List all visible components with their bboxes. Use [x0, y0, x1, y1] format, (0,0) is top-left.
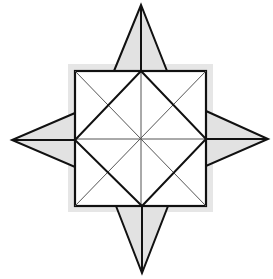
compass-star-diagram — [0, 0, 273, 279]
thin-guide-lines — [75, 71, 206, 206]
diagram-canvas — [0, 0, 273, 279]
